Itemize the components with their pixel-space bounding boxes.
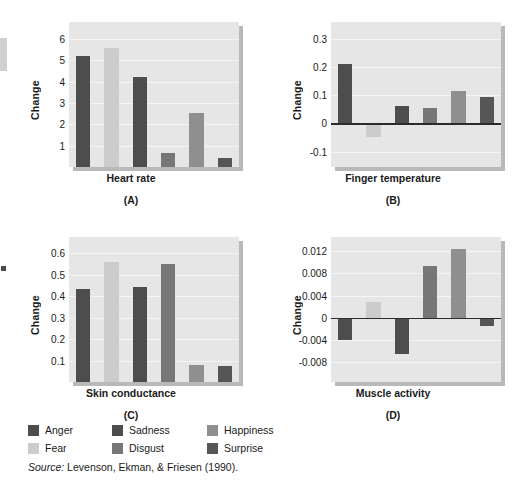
gridline [69,82,239,83]
plot-area-b [331,22,501,167]
plot-area-a [69,22,239,167]
y-tick-label: 0 [321,118,327,129]
source-text: Levenson, Ekman, & Friesen (1990). [67,461,238,473]
panel-letter-d: (D) [262,409,524,421]
bar-disgust [161,153,175,167]
figure-emotion-physiology: Change 654321 Heart rate (A) Change 0.30… [0,0,524,485]
legend-swatch-sadness [112,425,123,436]
y-tick-label: 5 [59,55,65,66]
legend-swatch-surprise [207,443,218,454]
gridline [69,124,239,125]
gridline [69,275,239,276]
legend-swatch-disgust [112,443,123,454]
plot-area-d [331,237,501,382]
y-tick-label: 4 [59,76,65,87]
legend-label: Disgust [129,442,164,454]
y-tick-label: 0.4 [51,291,65,302]
legend-item-fear: Fear [28,442,112,454]
source-caption: Source: Levenson, Ekman, & Friesen (1990… [28,461,238,473]
gridline [69,146,239,147]
y-axis-ticks-d: 0.0120.0080.0040-0.004-0.008 [298,237,329,382]
gridline [69,103,239,104]
bar-fear [366,302,380,318]
y-axis-ticks-b: 0.30.20.10-0.1 [298,22,329,167]
bar-happiness [451,91,465,123]
gridline [69,318,239,319]
gridline [331,251,501,252]
y-tick-label: -0.008 [299,357,327,368]
legend-swatch-anger [28,425,39,436]
chart-panel-b: Change 0.30.20.10-0.1 Finger temperature… [262,0,524,215]
bar-sadness [133,77,147,167]
gridline [331,340,501,341]
legend-swatch-fear [28,443,39,454]
gridline [69,339,239,340]
legend-label: Surprise [224,442,263,454]
y-tick-label: 0.008 [302,268,327,279]
legend-item-sadness: Sadness [112,424,207,436]
y-tick-label: 6 [59,34,65,45]
x-axis-label-a: Heart rate [0,172,262,184]
plot-area-c [69,237,239,382]
bar-disgust [423,108,437,123]
bar-anger [76,289,90,382]
y-tick-label: 0.2 [51,334,65,345]
bar-happiness [451,249,465,318]
legend-item-happiness: Happiness [207,424,302,436]
gridline [69,361,239,362]
bar-anger [338,318,352,340]
y-tick-label: 3 [59,98,65,109]
y-tick-label: 0.1 [313,90,327,101]
y-tick-label: 1 [59,140,65,151]
legend-row: AngerSadnessHappiness [28,421,328,439]
x-axis-label-b: Finger temperature [262,172,524,184]
bar-anger [338,64,352,123]
gridline [69,296,239,297]
bar-fear [366,123,380,137]
gridline [331,95,501,96]
legend-label: Anger [45,424,73,436]
gridline [331,67,501,68]
gridline [69,253,239,254]
legend-item-surprise: Surprise [207,442,302,454]
bar-happiness [189,365,203,382]
x-axis-label-c: Skin conductance [0,387,262,399]
panel-letter-b: (B) [262,194,524,206]
gridline [331,273,501,274]
y-tick-label: 0.3 [313,33,327,44]
bar-surprise [218,366,232,382]
legend-item-anger: Anger [28,424,112,436]
chart-panel-a: Change 654321 Heart rate (A) [0,0,262,215]
x-axis-label-d: Muscle activity [262,387,524,399]
gridline [331,362,501,363]
legend-label: Sadness [129,424,170,436]
y-axis-ticks-a: 654321 [36,22,67,167]
y-tick-label: 0.3 [51,312,65,323]
bar-sadness [395,106,409,123]
y-tick-label: 2 [59,119,65,130]
bar-surprise [480,97,494,124]
gridline [331,152,501,153]
panel-letter-c: (C) [0,409,262,421]
bar-disgust [423,266,437,318]
y-tick-label: 0.1 [51,355,65,366]
legend: AngerSadnessHappinessFearDisgustSurprise [28,421,328,457]
y-tick-label: 0.012 [302,245,327,256]
gridline [69,39,239,40]
bar-fear [104,48,118,167]
source-prefix: Source: [28,461,64,473]
bar-happiness [189,113,203,167]
bar-sadness [395,318,409,354]
bar-fear [104,262,118,382]
bar-sadness [133,287,147,382]
y-tick-label: 0 [321,312,327,323]
y-tick-label: 0.6 [51,248,65,259]
panel-letter-a: (A) [0,194,262,206]
gridline [331,39,501,40]
y-tick-label: 0.5 [51,269,65,280]
legend-label: Happiness [224,424,274,436]
chart-panel-c: Change 0.60.50.40.30.20.1 Skin conductan… [0,215,262,430]
gridline [69,60,239,61]
y-tick-label: -0.004 [299,335,327,346]
legend-item-disgust: Disgust [112,442,207,454]
